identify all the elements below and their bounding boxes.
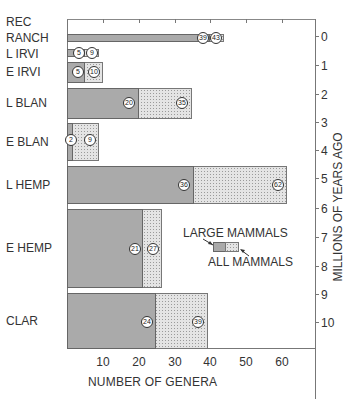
y-tick-label: 6 bbox=[321, 203, 328, 215]
y-tick-label: 5 bbox=[321, 173, 328, 185]
category-label: L BLAN bbox=[6, 97, 47, 109]
x-tick bbox=[246, 19, 247, 23]
y-tick bbox=[315, 322, 319, 323]
value-large: 21 bbox=[129, 243, 141, 255]
y-tick bbox=[315, 65, 319, 66]
category-label: E IRVI bbox=[6, 66, 40, 78]
value-all: 39 bbox=[192, 316, 204, 328]
x-tick-label: 30 bbox=[168, 355, 181, 369]
y-tick bbox=[315, 36, 319, 37]
y-tick-label: 4 bbox=[321, 145, 328, 157]
y-tick-label: 1 bbox=[321, 60, 328, 72]
x-tick-label: 50 bbox=[239, 355, 252, 369]
x-axis-title: NUMBER OF GENERA bbox=[88, 375, 217, 389]
value-all: 27 bbox=[147, 243, 159, 255]
y-tick-label: 7 bbox=[321, 232, 328, 244]
category-label: L IRVI bbox=[6, 48, 39, 60]
right-axis bbox=[315, 19, 316, 399]
value-all: 10 bbox=[88, 66, 100, 78]
y-tick bbox=[315, 208, 319, 209]
category-label: RANCH bbox=[6, 32, 49, 44]
value-large: 2 bbox=[65, 134, 77, 146]
x-tick-label: 10 bbox=[96, 355, 109, 369]
y-tick-label: 10 bbox=[321, 317, 334, 329]
category-label: REC bbox=[6, 16, 31, 28]
y-tick-label: 0 bbox=[321, 31, 328, 43]
category-label: E BLAN bbox=[6, 136, 49, 148]
bar-large-l-hemp bbox=[67, 166, 194, 204]
category-label: L HEMP bbox=[6, 179, 50, 191]
x-tick-label: 60 bbox=[275, 355, 288, 369]
value-large: 20 bbox=[123, 97, 135, 109]
y-tick bbox=[315, 266, 319, 267]
y-tick bbox=[315, 237, 319, 238]
legend-arrows bbox=[195, 236, 255, 260]
y-axis-title: MILLIONS OF YEARS AGO bbox=[331, 132, 345, 281]
y-tick bbox=[315, 178, 319, 179]
y-tick bbox=[315, 94, 319, 95]
y-tick bbox=[315, 150, 319, 151]
bar-large-ranch bbox=[67, 34, 210, 42]
x-tick bbox=[282, 19, 283, 23]
value-all: 35 bbox=[176, 97, 188, 109]
y-tick-label: 2 bbox=[321, 89, 328, 101]
value-large: 24 bbox=[141, 316, 153, 328]
y-tick-label: 3 bbox=[321, 117, 328, 129]
x-tick-label: 20 bbox=[132, 355, 145, 369]
y-tick bbox=[315, 294, 319, 295]
value-large: 5 bbox=[73, 47, 85, 59]
value-all: 9 bbox=[86, 47, 98, 59]
value-all: 43 bbox=[210, 32, 222, 44]
category-label: E HEMP bbox=[6, 242, 52, 254]
value-large: 5 bbox=[72, 66, 84, 78]
value-all: 9 bbox=[84, 134, 96, 146]
x-tick-label: 40 bbox=[203, 355, 216, 369]
x-tick bbox=[175, 19, 176, 23]
value-large: 39 bbox=[197, 32, 209, 44]
x-tick bbox=[103, 19, 104, 23]
value-large: 36 bbox=[178, 179, 190, 191]
x-tick bbox=[210, 19, 211, 23]
category-label: CLAR bbox=[6, 315, 38, 327]
x-tick bbox=[139, 19, 140, 23]
y-tick-label: 9 bbox=[321, 289, 328, 301]
y-tick-label: 8 bbox=[321, 261, 328, 273]
value-all: 62 bbox=[272, 179, 284, 191]
y-tick bbox=[315, 122, 319, 123]
